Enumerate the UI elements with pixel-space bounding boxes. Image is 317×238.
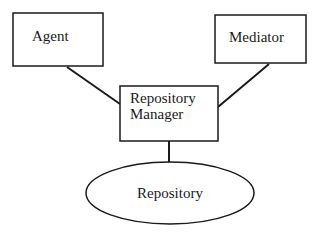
node-repository-manager: Repository Manager bbox=[120, 86, 218, 141]
repository-manager-label-line1: Repository bbox=[130, 90, 196, 106]
agent-label: Agent bbox=[32, 28, 69, 44]
edge-agent-to-repository-manager bbox=[67, 67, 120, 104]
node-repository: Repository bbox=[86, 162, 254, 224]
mediator-label: Mediator bbox=[229, 29, 284, 45]
node-mediator: Mediator bbox=[215, 15, 306, 63]
diagram-canvas: Agent Mediator Repository Manager Reposi… bbox=[0, 0, 317, 238]
repository-manager-label-line2: Manager bbox=[130, 106, 183, 122]
edge-mediator-to-repository-manager bbox=[218, 64, 269, 107]
node-agent: Agent bbox=[13, 13, 103, 66]
repository-label: Repository bbox=[137, 185, 203, 201]
